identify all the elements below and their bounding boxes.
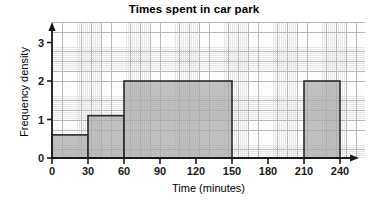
x-tick-label-0: 0 bbox=[37, 165, 67, 177]
y-tick-label-3: 3 bbox=[30, 37, 44, 49]
y-tick-label-1: 1 bbox=[30, 114, 44, 126]
bar-0-30 bbox=[52, 135, 88, 158]
x-axis-title: Time (minutes) bbox=[52, 182, 365, 194]
bar-210-240 bbox=[304, 81, 340, 158]
x-tick-label-60: 60 bbox=[109, 165, 139, 177]
y-tick-label-2: 2 bbox=[30, 75, 44, 87]
x-tick-label-180: 180 bbox=[253, 165, 283, 177]
x-tick-label-120: 120 bbox=[181, 165, 211, 177]
bar-30-60 bbox=[88, 116, 124, 158]
x-tick-label-30: 30 bbox=[73, 165, 103, 177]
y-tick-label-0: 0 bbox=[30, 152, 44, 164]
x-tick-label-150: 150 bbox=[217, 165, 247, 177]
x-tick-label-210: 210 bbox=[289, 165, 319, 177]
histogram-figure: Times spent in car park bbox=[0, 0, 388, 202]
x-tick-label-90: 90 bbox=[145, 165, 175, 177]
bar-series bbox=[52, 81, 340, 158]
bar-60-150 bbox=[124, 81, 232, 158]
y-axis-title: Frequency density bbox=[18, 27, 30, 157]
x-tick-label-240: 240 bbox=[325, 165, 355, 177]
